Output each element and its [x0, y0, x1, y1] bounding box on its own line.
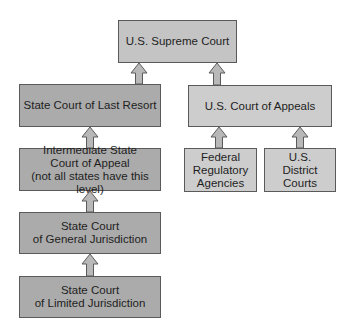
supreme-court-box: U.S. Supreme Court: [118, 20, 237, 63]
arrow-up-icon: [210, 127, 228, 148]
state-intermediate-box: Intermediate State Court of Appeal (not …: [19, 148, 161, 191]
district-courts-label: U.S. District Courts: [282, 151, 317, 190]
arrow-up-icon: [81, 127, 99, 148]
us-court-of-appeals-box: U.S. Court of Appeals: [188, 85, 332, 127]
state-last-resort-box: State Court of Last Resort: [19, 84, 161, 127]
arrow-up-icon: [81, 191, 99, 212]
state-intermediate-label: Intermediate State Court of Appeal (not …: [20, 144, 160, 196]
arrow-up-icon: [291, 127, 309, 148]
district-courts-box: U.S. District Courts: [264, 148, 336, 192]
us-court-of-appeals-label: U.S. Court of Appeals: [205, 100, 316, 113]
state-general-label: State Court of General Jurisdiction: [33, 220, 147, 246]
state-limited-label: State Court of Limited Jurisdiction: [35, 284, 146, 310]
state-last-resort-label: State Court of Last Resort: [24, 99, 157, 112]
state-limited-box: State Court of Limited Jurisdiction: [19, 276, 161, 318]
supreme-court-label: U.S. Supreme Court: [126, 35, 230, 48]
federal-agencies-box: Federal Regulatory Agencies: [184, 148, 257, 192]
arrow-up-icon: [208, 63, 226, 85]
state-general-box: State Court of General Jurisdiction: [19, 212, 161, 254]
arrow-up-icon: [81, 254, 99, 276]
arrow-up-icon: [130, 63, 148, 84]
federal-agencies-label: Federal Regulatory Agencies: [193, 151, 249, 190]
